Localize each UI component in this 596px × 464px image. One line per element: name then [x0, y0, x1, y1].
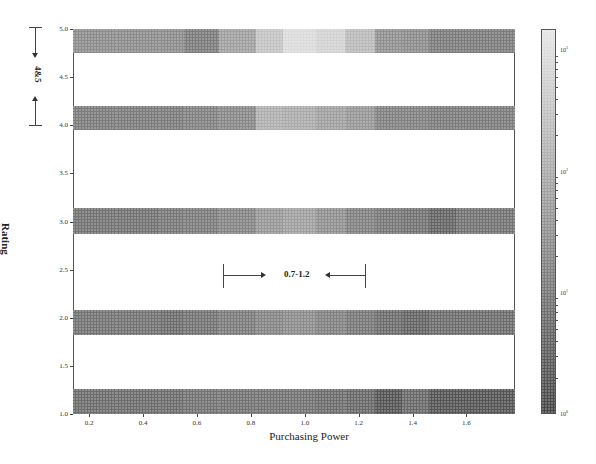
heatmap-cell [316, 208, 346, 234]
x-tick-mark [305, 414, 306, 417]
colorbar-minor-tick [556, 220, 558, 221]
heatmap-cell [73, 389, 117, 414]
heatmap-cell [283, 29, 316, 53]
colorbar-minor-tick [556, 356, 558, 357]
colorbar-minor-tick [556, 183, 558, 184]
heatmap-cell [402, 29, 429, 53]
heatmap-cell [184, 208, 220, 234]
heatmap-cell [345, 310, 375, 335]
heatmap-cell [184, 29, 220, 53]
heatmap-cell [159, 310, 184, 335]
x-tick-label: 1.6 [456, 419, 476, 427]
heatmap-cell [256, 208, 283, 234]
annotation-text-4-5: 4&5 [33, 66, 43, 83]
colorbar-minor-tick [556, 87, 558, 88]
y-tick-mark [70, 414, 73, 415]
heatmap-cell [375, 310, 402, 335]
x-tick-mark [466, 414, 467, 417]
colorbar-minor-tick [556, 62, 558, 63]
heatmap-cell [73, 106, 117, 130]
colorbar-tick-label: 100 [560, 409, 568, 417]
colorbar-minor-tick [556, 341, 558, 342]
colorbar-minor-tick [556, 198, 558, 199]
x-tick-label: 1.0 [295, 419, 315, 427]
y-tick-mark [70, 29, 73, 30]
y-tick-mark [70, 125, 73, 126]
heatmap-cell [283, 106, 316, 130]
y-tick-label: 2.0 [48, 314, 68, 322]
heatmap-cell [283, 310, 316, 335]
y-tick-mark [70, 318, 73, 319]
heatmap-cell [219, 310, 257, 335]
heatmap-cell [283, 208, 316, 234]
heatmap-cell [316, 310, 346, 335]
heatmap-cell [116, 389, 160, 414]
heatmap-cell [429, 29, 456, 53]
heatmap-cell [116, 208, 160, 234]
heatmap-cell [402, 106, 429, 130]
colorbar-minor-tick [556, 77, 558, 78]
colorbar-minor-tick [556, 235, 558, 236]
heatmap-cell [219, 389, 257, 414]
x-tick-label: 0.4 [133, 419, 153, 427]
colorbar-minor-tick [556, 99, 558, 100]
colorbar-minor-tick [556, 69, 558, 70]
colorbar-minor-tick [556, 135, 558, 136]
heatmap-cell [316, 29, 346, 53]
colorbar-minor-tick [556, 305, 558, 306]
heatmap-cell [316, 106, 346, 130]
heatmap-cell [375, 106, 402, 130]
arrow-right-icon [261, 272, 266, 278]
annotation-line-right [330, 275, 365, 276]
heatmap-cell [402, 389, 429, 414]
heatmap-cell [456, 29, 516, 53]
heatmap-cell [429, 208, 456, 234]
x-tick-mark [251, 414, 252, 417]
colorbar-minor-tick [556, 320, 558, 321]
x-tick-mark [89, 414, 90, 417]
y-tick-mark [70, 77, 73, 78]
heatmap-cell [159, 208, 184, 234]
heatmap-cell [402, 208, 429, 234]
heatmap-cell [375, 29, 402, 53]
colorbar-tick-label: 103 [560, 45, 568, 53]
heatmap-cell [429, 310, 456, 335]
heatmap-cell [429, 389, 456, 414]
heatmap-cell [184, 310, 220, 335]
colorbar-minor-tick [556, 208, 558, 209]
heatmap-cell [184, 106, 220, 130]
y-tick-mark [70, 222, 73, 223]
heatmap-cell [429, 106, 456, 130]
annotation-line-left [223, 275, 263, 276]
arrow-down-icon [32, 53, 38, 58]
y-tick-label: 1.0 [48, 410, 68, 418]
x-tick-mark [143, 414, 144, 417]
heatmap-cell [316, 389, 346, 414]
x-tick-label: 0.2 [79, 419, 99, 427]
x-tick-label: 0.6 [187, 419, 207, 427]
heatmap-cell [256, 106, 283, 130]
x-tick-label: 0.8 [241, 419, 261, 427]
heatmap-cell [116, 106, 160, 130]
y-tick-mark [70, 173, 73, 174]
colorbar-tick-label: 102 [560, 167, 568, 175]
y-tick-mark [70, 366, 73, 367]
colorbar-minor-tick [556, 177, 558, 178]
annotation-cap-left [223, 264, 224, 288]
x-tick-mark [197, 414, 198, 417]
heatmap-cell [256, 310, 283, 335]
heatmap-cell [345, 208, 375, 234]
heatmap-cell [375, 208, 402, 234]
heatmap-cell [283, 389, 316, 414]
y-tick-label: 4.0 [48, 121, 68, 129]
x-tick-mark [359, 414, 360, 417]
colorbar-minor-tick [556, 56, 558, 57]
y-tick-label: 4.5 [48, 73, 68, 81]
heatmap-cell [159, 29, 184, 53]
y-tick-label: 2.5 [48, 266, 68, 274]
heatmap-cell [402, 310, 429, 335]
heatmap-cell [159, 389, 184, 414]
heatmap-cell [375, 389, 402, 414]
heatmap-cell [345, 106, 375, 130]
colorbar-minor-tick [556, 256, 558, 257]
